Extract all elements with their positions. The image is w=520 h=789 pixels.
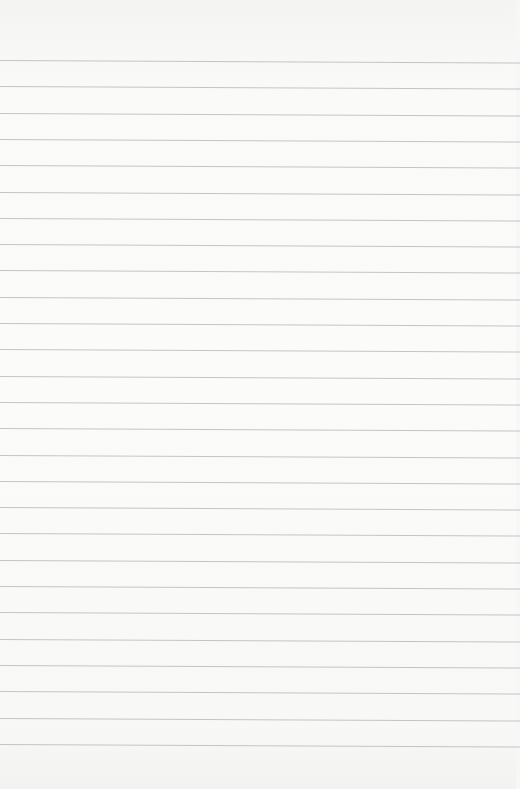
ruled-line	[0, 270, 520, 274]
ruled-line	[0, 323, 520, 327]
ruled-line	[0, 428, 520, 432]
ruled-line	[0, 218, 520, 222]
ruled-line	[0, 165, 520, 169]
ruled-line	[0, 297, 520, 301]
ruled-line	[0, 533, 520, 537]
ruled-line	[0, 139, 520, 143]
ruled-line	[0, 481, 520, 485]
ruled-line	[0, 639, 520, 643]
ruled-line	[0, 60, 520, 64]
ruled-line	[0, 376, 520, 380]
ruled-line	[0, 455, 520, 459]
ruled-line	[0, 744, 520, 748]
ruled-line	[0, 192, 520, 196]
ruled-line	[0, 244, 520, 248]
ruled-line	[0, 612, 520, 616]
ruled-line	[0, 402, 520, 406]
ruled-line	[0, 113, 520, 117]
ruled-line	[0, 718, 520, 722]
ruled-line	[0, 665, 520, 669]
ruled-line	[0, 586, 520, 590]
ruled-line	[0, 691, 520, 695]
ruled-line	[0, 86, 520, 90]
ruled-line	[0, 560, 520, 564]
ruled-line	[0, 507, 520, 511]
ruled-line	[0, 349, 520, 353]
